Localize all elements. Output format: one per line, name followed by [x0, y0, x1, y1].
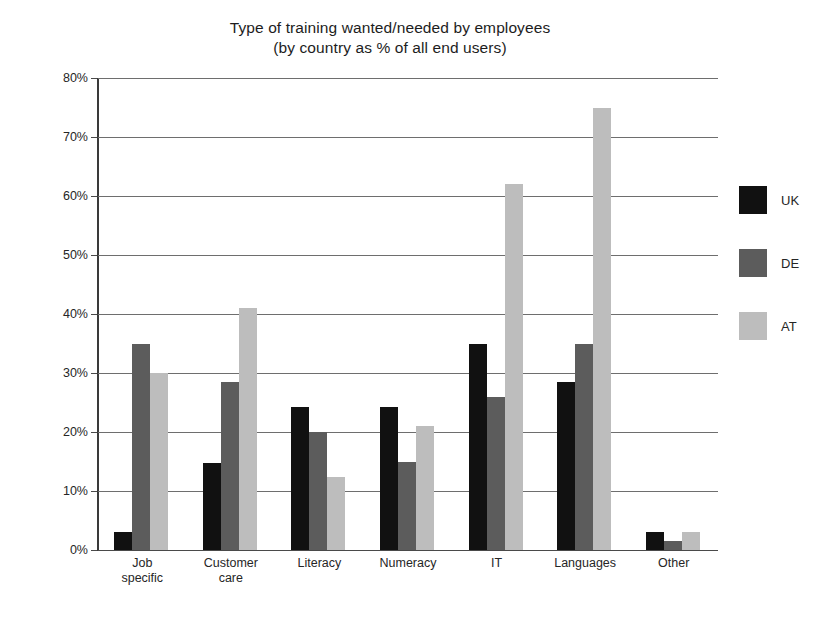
y-tick-label-80: 80%	[44, 72, 88, 84]
legend-label-uk: UK	[781, 193, 799, 208]
x-label-line: care	[187, 571, 276, 586]
chart-title-line-1: Type of training wanted/needed by employ…	[230, 19, 551, 36]
x-label-line: Languages	[541, 556, 630, 571]
bar-uk-literacy	[291, 407, 309, 550]
x-label-line: Literacy	[275, 556, 364, 571]
x-label-line: Numeracy	[364, 556, 453, 571]
legend-item-uk[interactable]: UK	[739, 186, 835, 249]
chart-legend: UKDEAT	[739, 186, 835, 375]
gridline-0	[98, 550, 718, 551]
y-tick-label-0: 0%	[44, 544, 88, 556]
chart-title: Type of training wanted/needed by employ…	[60, 18, 720, 58]
bar-uk-other	[646, 532, 664, 550]
bar-uk-customer-care	[203, 463, 221, 550]
x-label-line: Job	[98, 556, 187, 571]
y-tick-label-30: 30%	[44, 367, 88, 379]
bar-de-job-specific	[132, 344, 150, 551]
bar-group-it	[469, 78, 523, 550]
x-axis-label-it: IT	[452, 556, 541, 571]
x-axis-label-languages: Languages	[541, 556, 630, 571]
bar-at-languages	[593, 108, 611, 551]
y-tick-label-70: 70%	[44, 131, 88, 143]
legend-item-de[interactable]: DE	[739, 249, 835, 312]
bar-groups	[98, 78, 718, 550]
bar-uk-it	[469, 344, 487, 551]
bar-de-other	[664, 541, 682, 550]
legend-swatch-uk	[739, 186, 767, 214]
x-axis-labels: JobspecificCustomercareLiteracyNumeracyI…	[98, 556, 718, 606]
x-label-line: specific	[98, 571, 187, 586]
bar-at-numeracy	[416, 426, 434, 550]
bar-group-literacy	[291, 78, 345, 550]
bar-group-other	[646, 78, 700, 550]
legend-swatch-de	[739, 249, 767, 277]
bar-de-languages	[575, 344, 593, 551]
x-axis-label-customer-care: Customercare	[187, 556, 276, 586]
bar-de-it	[487, 397, 505, 550]
y-tick-label-40: 40%	[44, 308, 88, 320]
x-axis-label-job-specific: Jobspecific	[98, 556, 187, 586]
y-axis-labels: 80%70%60%50%40%30%20%10%0%	[40, 0, 88, 622]
bar-at-it	[505, 184, 523, 550]
bar-chart: Type of training wanted/needed by employ…	[0, 0, 839, 622]
x-axis-label-other: Other	[629, 556, 718, 571]
x-label-line: IT	[452, 556, 541, 571]
bar-group-job-specific	[114, 78, 168, 550]
y-tick-label-60: 60%	[44, 190, 88, 202]
chart-title-subtitle: (by country as % of all end users)	[60, 38, 720, 58]
bar-de-numeracy	[398, 462, 416, 551]
bar-at-customer-care	[239, 308, 257, 550]
y-tick-label-20: 20%	[44, 426, 88, 438]
bar-de-customer-care	[221, 382, 239, 550]
bar-group-customer-care	[203, 78, 257, 550]
y-tick-label-50: 50%	[44, 249, 88, 261]
bar-de-literacy	[309, 432, 327, 550]
bar-group-languages	[557, 78, 611, 550]
bar-at-job-specific	[150, 373, 168, 550]
bar-uk-job-specific	[114, 532, 132, 550]
bar-group-numeracy	[380, 78, 434, 550]
bar-at-literacy	[327, 477, 345, 550]
x-label-line: Customer	[187, 556, 276, 571]
legend-label-de: DE	[781, 256, 799, 271]
bar-uk-languages	[557, 382, 575, 550]
y-tick-label-10: 10%	[44, 485, 88, 497]
x-label-line: Other	[629, 556, 718, 571]
bar-at-other	[682, 532, 700, 550]
legend-item-at[interactable]: AT	[739, 312, 835, 375]
x-axis-label-literacy: Literacy	[275, 556, 364, 571]
legend-swatch-at	[739, 312, 767, 340]
legend-label-at: AT	[781, 319, 797, 334]
x-axis-label-numeracy: Numeracy	[364, 556, 453, 571]
bar-uk-numeracy	[380, 407, 398, 550]
